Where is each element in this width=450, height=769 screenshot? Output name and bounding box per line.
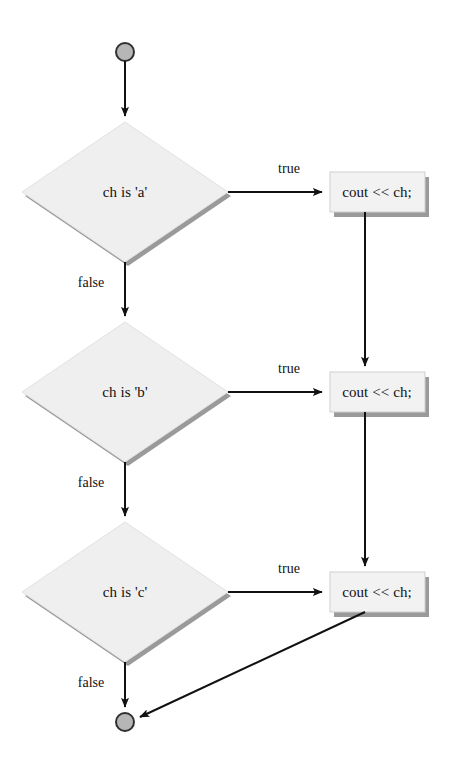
process-node-a xyxy=(330,172,429,217)
end-terminator-node xyxy=(116,713,134,731)
decision-b-shape xyxy=(22,322,228,462)
decision-a-shape xyxy=(22,122,228,262)
flowchart-svg xyxy=(0,0,450,769)
flowchart-diagram: ch is 'a' cout << ch; ch is 'b' cout << … xyxy=(0,0,450,769)
decision-node-a xyxy=(22,122,231,266)
decision-node-b xyxy=(22,322,231,466)
process-b-shape xyxy=(330,372,425,412)
start-terminator-node xyxy=(116,43,134,61)
process-c-shape xyxy=(330,572,425,612)
decision-c-shape xyxy=(22,522,228,662)
decision-node-c xyxy=(22,522,231,666)
process-node-b xyxy=(330,372,429,417)
process-a-shape xyxy=(330,172,425,212)
process-node-c xyxy=(330,572,429,617)
